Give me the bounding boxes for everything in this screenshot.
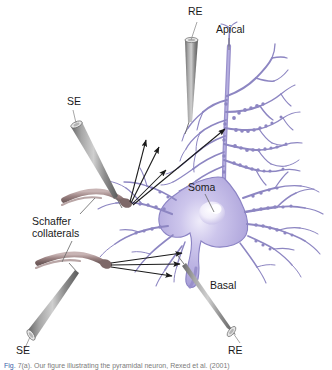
stimulating-electrode-lower[interactable] (25, 263, 79, 348)
synaptic-projection-arrows-basal (111, 253, 182, 276)
schaffer-collateral-lower (36, 254, 113, 270)
label-schaffer-line1: Schaffer (32, 215, 71, 227)
label-schaffer-collaterals: Schaffer collaterals (32, 216, 79, 239)
label-apical: Apical (216, 24, 245, 36)
apical-dendritic-tree (161, 22, 302, 191)
recording-electrode-apical[interactable] (185, 22, 198, 134)
label-schaffer-line2: collaterals (32, 227, 79, 239)
figure-caption: Fig. 7(a). Our figure illustrating the p… (4, 362, 332, 370)
figure-container: RE Apical SE Schaffer collaterals Soma B… (0, 0, 332, 370)
label-stimulating-electrode-bottom: SE (16, 345, 30, 357)
label-recording-electrode-bottom: RE (228, 345, 243, 357)
label-basal: Basal (210, 280, 236, 292)
label-recording-electrode-top: RE (188, 6, 203, 18)
label-stimulating-electrode-top: SE (67, 96, 81, 108)
schaffer-collateral-upper (62, 191, 133, 209)
caption-tag: Fig. (4, 362, 16, 369)
recording-electrode-basal[interactable] (178, 256, 240, 343)
caption-text: 7(a). Our figure illustrating the pyrami… (18, 362, 230, 369)
label-soma: Soma (188, 182, 215, 194)
neuron-diagram-canvas (0, 0, 332, 370)
